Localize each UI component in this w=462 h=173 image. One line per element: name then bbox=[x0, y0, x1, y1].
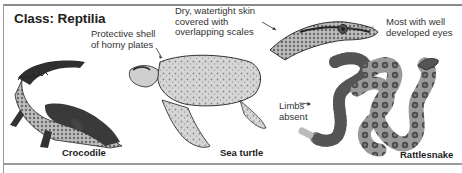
annotation-skin: Dry, watertight skin covered with overla… bbox=[175, 6, 255, 38]
annotation-eyes-line2: developed eyes bbox=[386, 28, 453, 39]
crocodile-illustration bbox=[10, 61, 122, 148]
rattlesnake-illustration bbox=[299, 58, 438, 150]
annotation-skin-line1: Dry, watertight skin bbox=[175, 6, 255, 17]
annotation-limbs: Limbs absent bbox=[279, 101, 308, 122]
annotation-eyes-line1: Most with well bbox=[386, 17, 453, 28]
annotation-limbs-line1: Limbs bbox=[279, 101, 308, 112]
sea-turtle-illustration bbox=[129, 48, 266, 147]
caption-rattlesnake: Rattlesnake bbox=[400, 149, 453, 160]
annotation-shell-line1: Protective shell bbox=[91, 29, 155, 40]
annotation-eyes: Most with well developed eyes bbox=[386, 17, 453, 38]
caption-sea-turtle: Sea turtle bbox=[220, 147, 263, 158]
caption-crocodile: Crocodile bbox=[62, 147, 106, 158]
annotation-skin-line3: overlapping scales bbox=[175, 27, 255, 38]
diagram-title: Class: Reptilia bbox=[14, 11, 106, 26]
annotation-shell: Protective shell of horny plates bbox=[91, 29, 155, 50]
annotation-shell-line2: of horny plates bbox=[91, 40, 155, 51]
annotation-limbs-line2: absent bbox=[279, 112, 308, 123]
